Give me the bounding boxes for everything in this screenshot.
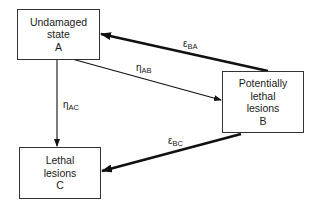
node-b-line-4: B <box>259 115 266 128</box>
node-b-line-3: lesions <box>247 102 280 115</box>
label-epsilon-bc: εBC <box>168 136 183 149</box>
label-eta-ac-subscript: AC <box>69 103 79 112</box>
node-c-lethal-lesions: Lethal lesions C <box>19 147 101 199</box>
label-eta-ac: ηAC <box>63 100 79 113</box>
node-a-undamaged-state: Undamaged state A <box>17 9 100 60</box>
node-b-line-1: Potentially <box>239 77 287 90</box>
label-eta-ab-subscript: AB <box>142 66 152 75</box>
node-b-potentially-lethal-lesions: Potentially lethal lesions B <box>222 71 304 133</box>
node-a-line-3: A <box>55 41 62 54</box>
node-c-line-1: Lethal <box>46 154 75 167</box>
label-epsilon-ba: εBA <box>183 39 197 52</box>
label-epsilon-ba-subscript: BA <box>187 42 197 51</box>
node-b-line-2: lethal <box>250 90 275 103</box>
label-eta-ab: ηAB <box>136 63 152 76</box>
node-c-line-3: C <box>56 179 64 192</box>
label-epsilon-bc-subscript: BC <box>172 139 182 148</box>
node-a-line-2: state <box>47 28 70 41</box>
node-a-line-1: Undamaged <box>30 16 87 29</box>
node-c-line-2: lesions <box>44 167 77 180</box>
